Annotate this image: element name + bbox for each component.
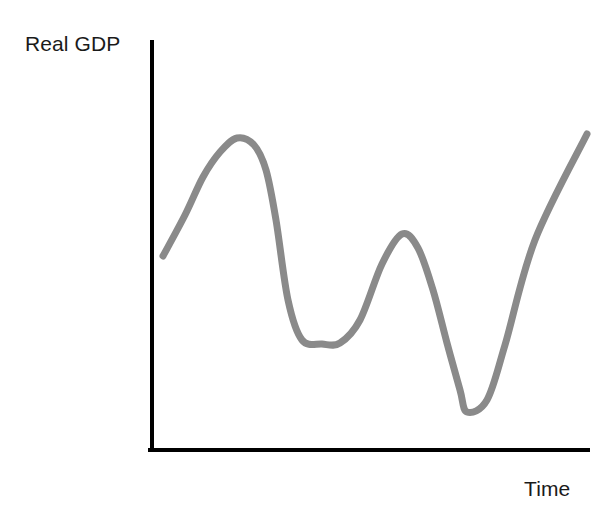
y-axis-label: Real GDP [25, 33, 120, 54]
chart-plot-area [0, 0, 602, 510]
x-axis-label: Time [524, 478, 570, 499]
axis-group [150, 42, 588, 450]
data-series-group [163, 134, 587, 412]
chart-figure: Real GDP Time [0, 0, 602, 510]
real-gdp-curve [163, 134, 587, 412]
